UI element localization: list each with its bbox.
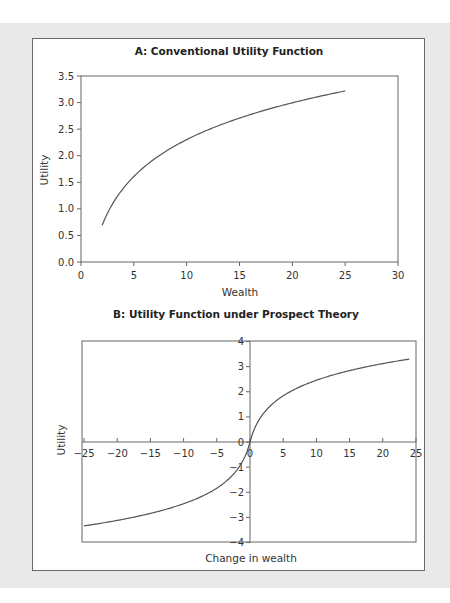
y-tick-label: 3.0 xyxy=(58,97,74,108)
x-tick-label: 20 xyxy=(376,448,389,459)
x-tick-label: 10 xyxy=(310,448,323,459)
x-tick-label: −10 xyxy=(173,448,194,459)
chart-b-x-label: Change in wealth xyxy=(205,552,297,564)
y-tick-label: −3 xyxy=(229,512,244,523)
x-tick-label: 25 xyxy=(339,270,352,281)
x-tick-label: −25 xyxy=(73,448,94,459)
chart-a: A: Conventional Utility Function 0.00.51… xyxy=(38,45,404,298)
chart-b-axes: −25−20−15−10−50510152025−4−3−2−101234 xyxy=(73,336,422,548)
x-tick-label: −15 xyxy=(140,448,161,459)
chart-a-plot-area xyxy=(81,76,398,262)
x-tick-label: 5 xyxy=(131,270,137,281)
x-tick-label: 0 xyxy=(78,270,84,281)
y-tick-label: 3.5 xyxy=(58,71,74,82)
x-tick-label: −20 xyxy=(107,448,128,459)
y-tick-label: 1.5 xyxy=(58,177,74,188)
charts-canvas: A: Conventional Utility Function 0.00.51… xyxy=(0,0,450,603)
y-tick-label: 2.5 xyxy=(58,124,74,135)
chart-b: B: Utility Function under Prospect Theor… xyxy=(55,308,422,564)
x-tick-label: 15 xyxy=(343,448,356,459)
y-tick-label: 3 xyxy=(238,361,244,372)
chart-a-title: A: Conventional Utility Function xyxy=(135,45,324,57)
y-tick-label: 4 xyxy=(238,336,244,347)
y-tick-label: 0.5 xyxy=(58,230,74,241)
y-tick-label: 2 xyxy=(238,386,244,397)
y-tick-label: 2.0 xyxy=(58,150,74,161)
x-tick-label: 15 xyxy=(233,270,246,281)
x-tick-label: 20 xyxy=(286,270,299,281)
chart-a-y-label: Utility xyxy=(38,155,50,186)
chart-a-x-axis: 051015202530 xyxy=(78,262,405,281)
y-tick-label: 1.0 xyxy=(58,203,74,214)
y-tick-label: 0.0 xyxy=(58,257,74,268)
x-tick-label: −5 xyxy=(209,448,224,459)
chart-b-utility-curve xyxy=(84,359,409,526)
x-tick-label: 25 xyxy=(410,448,423,459)
x-tick-label: 10 xyxy=(180,270,193,281)
chart-a-utility-curve xyxy=(102,91,345,225)
y-tick-label: 1 xyxy=(238,411,244,422)
y-tick-label: −4 xyxy=(229,537,244,548)
x-tick-label: 30 xyxy=(392,270,405,281)
y-tick-label: 0 xyxy=(238,437,244,448)
y-tick-label: −2 xyxy=(229,487,244,498)
chart-a-y-axis: 0.00.51.01.52.02.53.03.5 xyxy=(58,71,81,268)
chart-b-y-label: Utility xyxy=(55,425,67,456)
chart-a-x-label: Wealth xyxy=(222,286,258,298)
x-tick-label: 5 xyxy=(280,448,286,459)
chart-b-title: B: Utility Function under Prospect Theor… xyxy=(113,308,359,320)
